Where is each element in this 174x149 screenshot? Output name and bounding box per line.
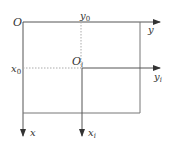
x0-label: x0 xyxy=(11,63,21,76)
x-axis-label: x xyxy=(30,127,36,138)
coordinate-diagram: O y0 y x0 Oi yi x xi xyxy=(0,0,174,149)
diagram-svg: O y0 y x0 Oi yi x xi xyxy=(0,0,174,149)
origin-i-label: Oi xyxy=(72,55,83,69)
origin-label: O xyxy=(13,16,22,29)
y0-label: y0 xyxy=(79,10,90,23)
xi-axis-label: xi xyxy=(88,127,96,140)
y-axis-label: y xyxy=(147,24,154,35)
yi-axis-label: yi xyxy=(153,71,162,84)
